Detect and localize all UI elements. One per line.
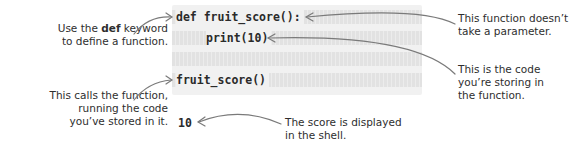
arrow-score-icon (198, 114, 281, 126)
arrow-no-parameter-icon (306, 13, 455, 24)
arrow-call-icon (134, 76, 172, 100)
arrow-stored-code-icon (268, 34, 455, 74)
callout-arrows (0, 0, 584, 146)
arrow-def-icon (134, 13, 172, 34)
